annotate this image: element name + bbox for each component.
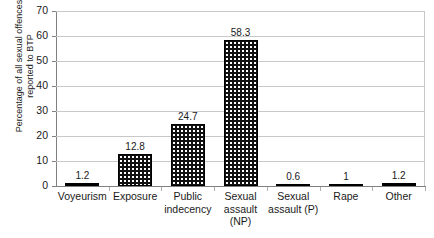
bar-value-label: 58.3 [216,27,266,38]
x-axis-line [56,186,426,187]
y-axis-tick-label: 30 [22,104,48,116]
gridline [56,11,425,12]
x-axis-category-label: Rape [320,190,373,203]
x-axis-category-label: Other [372,190,425,203]
bar [171,124,205,186]
y-axis-tick-label: 40 [22,79,48,91]
x-axis-category-label: Sexualassault(NP) [214,190,267,228]
bar [276,184,310,187]
y-axis-tick-label: 60 [22,29,48,41]
y-axis-tick-label: 0 [22,179,48,191]
y-axis-tick-label: 10 [22,154,48,166]
y-axis-tick-label: 50 [22,54,48,66]
y-axis-tick-mark [52,36,56,37]
bar [65,183,99,186]
x-axis-category-label: Sexualassault (P) [267,190,320,215]
plot-right-border [424,11,425,186]
bar [329,184,363,187]
y-axis-tick-mark [52,186,56,187]
y-axis-tick-label: 20 [22,129,48,141]
y-axis-tick-mark [52,61,56,62]
x-axis-category-label: Exposure [109,190,162,203]
y-axis-tick-mark [52,161,56,162]
y-axis-tick-label: 70 [22,4,48,16]
y-axis-tick-mark [52,11,56,12]
x-axis-category-label: Voyeurism [56,190,109,203]
x-axis-tick-mark [425,187,426,191]
bar-value-label: 1.2 [57,170,107,181]
bar-value-label: 0.6 [268,171,318,182]
y-axis-tick-mark [52,111,56,112]
bar [382,183,416,186]
bar [118,154,152,186]
x-axis-category-label: Publicindecency [161,190,214,215]
y-axis-tick-mark [52,86,56,87]
bar-value-label: 12.8 [110,141,160,152]
bar-value-label: 1.2 [374,170,424,181]
y-axis-tick-mark [52,136,56,137]
bar-value-label: 1 [321,171,371,182]
bar-value-label: 24.7 [163,111,213,122]
bar-chart: Percentage of all sexual offences report… [0,0,434,238]
bar [224,40,258,186]
